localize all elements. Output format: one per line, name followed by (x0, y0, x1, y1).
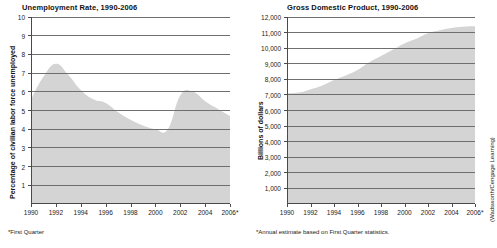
x-tick-mark (106, 204, 107, 207)
y-tick-label: 8 (0, 51, 25, 58)
x-tick-mark (428, 204, 429, 207)
y-tick-mark (284, 63, 287, 64)
gridline (287, 48, 475, 49)
y-tick-label: 6 (0, 88, 25, 95)
x-tick-label: 1994 (74, 209, 88, 216)
y-tick-label: 2 (0, 163, 25, 170)
y-tick-mark (284, 94, 287, 95)
gridline (287, 188, 475, 189)
y-tick-label: 10 (0, 14, 25, 21)
x-tick-label: 1996 (98, 209, 112, 216)
footnote-unemployment: *First Quarter (8, 229, 44, 235)
x-tick-mark (56, 204, 57, 207)
y-tick-label: 10,000 (248, 45, 281, 52)
gridline (287, 32, 475, 33)
y-tick-mark (284, 126, 287, 127)
gridline (31, 110, 230, 111)
gridline (287, 79, 475, 80)
x-tick-mark (475, 204, 476, 207)
y-tick-mark (284, 110, 287, 111)
x-tick-label: 1994 (327, 209, 341, 216)
gridline (31, 54, 230, 55)
y-axis-line-unemployment (31, 17, 32, 204)
y-tick-label: 2,000 (248, 169, 281, 176)
x-tick-mark (230, 204, 231, 207)
y-tick-label: 5 (0, 107, 25, 114)
y-tick-mark (284, 17, 287, 18)
gridline (31, 129, 230, 130)
y-tick-mark (28, 54, 31, 55)
x-tick-label: 1992 (49, 209, 63, 216)
y-tick-mark (28, 185, 31, 186)
y-tick-mark (28, 166, 31, 167)
x-tick-label: 1992 (303, 209, 317, 216)
gridline (287, 94, 475, 95)
y-tick-mark (28, 73, 31, 74)
x-tick-label: 2006* (467, 209, 484, 216)
y-tick-label: 6,000 (248, 107, 281, 114)
plot-area-unemployment (31, 17, 230, 204)
y-tick-mark (284, 79, 287, 80)
y-tick-mark (284, 188, 287, 189)
x-tick-label: 2002 (173, 209, 187, 216)
gridline (31, 73, 230, 74)
gridline (287, 157, 475, 158)
x-tick-mark (405, 204, 406, 207)
y-tick-mark (28, 17, 31, 18)
x-tick-mark (180, 204, 181, 207)
y-tick-label: 9 (0, 32, 25, 39)
x-tick-label: 2000 (148, 209, 162, 216)
y-tick-label: 1 (0, 182, 25, 189)
footnote-gdp: *Annual estimate based on First Quarter … (256, 229, 389, 235)
x-tick-label: 1998 (374, 209, 388, 216)
x-tick-label: 2006* (222, 209, 239, 216)
y-tick-mark (28, 35, 31, 36)
chart-title-unemployment: Unemployment Rate, 1990-2006 (22, 3, 137, 12)
x-tick-mark (334, 204, 335, 207)
y-tick-label: 12,000 (248, 14, 281, 21)
x-tick-mark (311, 204, 312, 207)
x-tick-mark (31, 204, 32, 207)
x-tick-mark (155, 204, 156, 207)
x-tick-mark (287, 204, 288, 207)
y-tick-mark (28, 129, 31, 130)
x-tick-label: 1998 (123, 209, 137, 216)
x-tick-mark (452, 204, 453, 207)
x-tick-label: 1990 (280, 209, 294, 216)
gridline (31, 185, 230, 186)
gridline (31, 17, 230, 18)
source-credit: (Wadsworth/Cengage Learning) (489, 137, 495, 222)
y-tick-mark (284, 32, 287, 33)
chart-panel-gdp: Gross Domestic Product, 1990-2006 Billio… (248, 0, 497, 248)
y-tick-label: 1,000 (248, 185, 281, 192)
gridline (287, 126, 475, 127)
y-tick-label: 11,000 (248, 29, 281, 36)
gridline (287, 110, 475, 111)
x-tick-label: 2004 (198, 209, 212, 216)
gridline (31, 35, 230, 36)
y-tick-label: 5,000 (248, 123, 281, 130)
y-tick-label: 3,000 (248, 154, 281, 161)
y-tick-label: 4,000 (248, 138, 281, 145)
y-tick-mark (284, 172, 287, 173)
gridline (287, 172, 475, 173)
y-tick-label: 7,000 (248, 91, 281, 98)
figure-root: Unemployment Rate, 1990-2006 Percentage … (0, 0, 497, 248)
x-tick-label: 2004 (444, 209, 458, 216)
gridline (287, 17, 475, 18)
gridline (287, 141, 475, 142)
y-tick-mark (284, 48, 287, 49)
y-tick-label: 9,000 (248, 60, 281, 67)
x-tick-mark (358, 204, 359, 207)
gridline (287, 63, 475, 64)
y-tick-label: 4 (0, 126, 25, 133)
x-tick-mark (131, 204, 132, 207)
chart-panel-unemployment: Unemployment Rate, 1990-2006 Percentage … (0, 0, 248, 248)
plot-area-gdp (287, 17, 475, 204)
y-axis-line-gdp (287, 17, 288, 204)
y-tick-label: 8,000 (248, 76, 281, 83)
gridline (31, 91, 230, 92)
x-tick-mark (381, 204, 382, 207)
y-tick-label: 7 (0, 70, 25, 77)
y-tick-mark (284, 157, 287, 158)
